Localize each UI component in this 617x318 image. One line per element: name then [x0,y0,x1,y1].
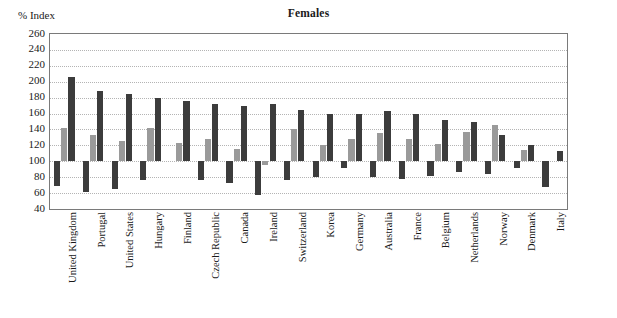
bar-group [370,34,391,209]
bar-upper [384,111,390,161]
x-label: United Kingdom [68,212,79,283]
bar-middle [377,133,383,162]
bar-group [542,34,563,209]
bar-middle [176,143,182,161]
gridline [50,209,567,210]
bar-group [54,34,75,209]
bar-group [456,34,477,209]
bar-upper [212,104,218,161]
bar-middle [147,128,153,161]
bar-middle [435,144,441,162]
bar-upper [97,91,103,161]
bar-upper [270,104,276,161]
bar-group [485,34,506,209]
bar-upper [442,120,448,161]
y-axis-unit-label: % Index [18,9,55,21]
y-tick-label: 40 [3,203,45,214]
bar-middle [406,139,412,161]
bar-upper [183,101,189,161]
bar-middle [521,150,527,161]
bar-lower [226,161,232,182]
bar-group [399,34,420,209]
x-label: Canada [240,212,251,244]
bar-group [255,34,276,209]
x-label: Switzerland [298,212,309,262]
bar-middle [320,145,326,162]
bar-lower [542,161,548,186]
bar-lower [514,161,520,167]
bar-upper [155,98,161,161]
x-label: Italy [556,212,567,231]
bar-lower [54,161,60,186]
bar-group [83,34,104,209]
bar-group [427,34,448,209]
bar-lower [198,161,204,180]
bar-lower [83,161,89,192]
x-axis-category-labels: United KingdomPortugalUnited StatesHunga… [49,212,568,316]
bar-upper [241,106,247,162]
x-label: Netherlands [470,212,481,263]
x-label: United States [125,212,136,268]
bar-lower [140,161,146,179]
x-label: Portugal [97,212,108,248]
bar-group [226,34,247,209]
bar-lower [370,161,376,177]
bar-group [140,34,161,209]
bar-group [198,34,219,209]
bar-lower [313,161,319,177]
x-label: Ireland [269,212,280,242]
x-label: Finland [183,212,194,244]
bar-middle [119,141,125,162]
bar-lower [112,161,118,189]
y-tick-label: 100 [3,155,45,166]
bar-middle [492,125,498,161]
bar-middle [348,139,354,161]
bar-middle [291,129,297,161]
bar-middle [90,135,96,161]
bar-upper [68,77,74,161]
bar-middle [234,149,240,161]
y-tick-label: 180 [3,91,45,102]
bar-group [341,34,362,209]
x-label: Belgium [441,212,452,248]
chart-title: Females [0,7,617,19]
bar-upper [356,114,362,162]
y-tick-label: 120 [3,139,45,150]
y-tick-label: 260 [3,28,45,39]
x-label: Australia [384,212,395,251]
bar-upper [413,114,419,162]
bar-group [313,34,334,209]
x-label: Czech Republic [211,212,222,279]
bar-lower [427,161,433,176]
plot-area [49,33,568,210]
y-tick-label: 220 [3,59,45,70]
bar-lower [399,161,405,179]
y-tick-label: 240 [3,43,45,54]
x-label: Korea [326,212,337,238]
bar-upper [557,151,563,161]
x-label: France [413,212,424,241]
bar-group [514,34,535,209]
bar-upper [298,110,304,161]
y-tick-label: 60 [3,187,45,198]
y-tick-label: 80 [3,171,45,182]
y-tick-label: 140 [3,123,45,134]
bar-lower [341,161,347,168]
bar-middle [463,132,469,161]
y-axis-tick-labels: 260240220200180160140120100806040 [0,33,45,210]
y-tick-label: 200 [3,75,45,86]
x-label: Norway [499,212,510,246]
y-tick-label: 160 [3,107,45,118]
bar-middle [61,128,67,161]
x-label: Denmark [527,212,538,251]
bar-lower [485,161,491,174]
bar-upper [327,114,333,162]
bar-middle [262,161,268,165]
bar-lower [255,161,261,195]
x-label: Germany [355,212,366,251]
bar-upper [528,145,534,162]
x-label: Hungary [154,212,165,249]
bar-upper [499,135,505,161]
chart-root: Females % Index 260240220200180160140120… [0,0,617,318]
bar-upper [471,122,477,162]
